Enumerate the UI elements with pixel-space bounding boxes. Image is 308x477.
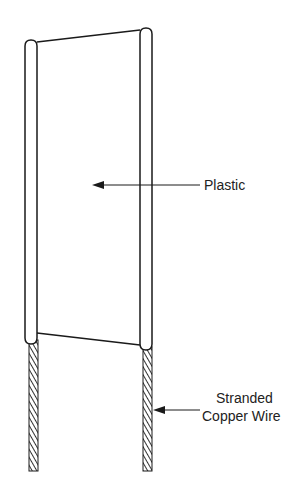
left-insulation-tube: [25, 40, 37, 344]
left-copper-wire: [29, 340, 38, 471]
arrowhead-icon: [153, 406, 165, 414]
plastic-web: [37, 30, 140, 345]
plastic-label: Plastic: [204, 177, 245, 193]
copper-wire-callout: Stranded Copper Wire: [153, 390, 281, 424]
copper-label-line1: Stranded: [216, 390, 273, 406]
right-insulation-tube: [140, 28, 152, 350]
right-copper-wire: [143, 347, 152, 471]
copper-label-line2: Copper Wire: [202, 408, 281, 424]
cable-diagram: Plastic Stranded Copper Wire: [0, 0, 308, 477]
